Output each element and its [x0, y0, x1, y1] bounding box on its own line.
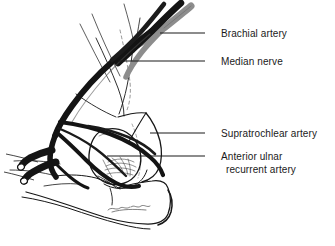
label-brachial-artery: Brachial artery — [221, 27, 287, 40]
label-supratrochlear-artery: Supratrochlear artery — [221, 127, 317, 140]
anatomical-figure: Brachial artery Median nerve Supratrochl… — [0, 0, 335, 246]
label-anterior-ulnar-line1: Anterior ulnar — [221, 151, 282, 162]
label-median-nerve: Median nerve — [221, 55, 283, 68]
label-anterior-ulnar-line2: recurrent artery — [221, 163, 296, 176]
label-anterior-ulnar-recurrent-artery: Anterior ulnarrecurrent artery — [221, 150, 296, 176]
